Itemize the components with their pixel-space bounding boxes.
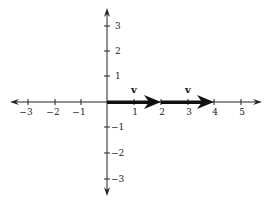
x-tick-label: 2: [159, 107, 165, 117]
y-tick-label: 2: [115, 46, 121, 56]
y-tick-label: −3: [111, 174, 125, 184]
y-tick-label: −2: [111, 148, 124, 158]
x-tick-label: 5: [239, 107, 245, 117]
y-tick-label: −1: [111, 122, 124, 132]
vector-label: v: [130, 84, 138, 95]
y-tick-label: 3: [115, 21, 121, 31]
x-tick-label: −2: [46, 107, 59, 117]
x-tick-label: 4: [212, 107, 218, 117]
vector-v-1: v: [107, 84, 161, 109]
x-tick-labels: −3 −2 −1 1 2 3 4 5: [19, 107, 245, 117]
x-tick-label: 1: [132, 107, 138, 117]
x-tick-label: −3: [19, 107, 33, 117]
x-tick-label: −1: [72, 107, 85, 117]
vector-label: v: [184, 84, 192, 95]
coordinate-diagram: −3 −2 −1 1 2 3 4 5 3 2 1 −1 −2 −3 v v: [0, 0, 269, 204]
vector-v-2: v: [161, 84, 214, 109]
y-tick-label: 1: [115, 71, 121, 81]
x-tick-label: 3: [186, 107, 192, 117]
